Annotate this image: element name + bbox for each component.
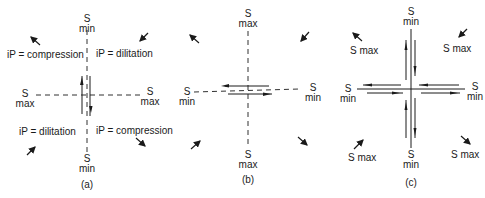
arrow-lower-right-icon bbox=[461, 136, 470, 144]
quadrant-label-upper-left: S max bbox=[350, 45, 378, 56]
slip-arrow-right-icon bbox=[263, 93, 271, 97]
panel-caption: (c) bbox=[405, 177, 417, 188]
slip-arrow-left-icon bbox=[221, 84, 229, 88]
axis-label-right: S min bbox=[467, 82, 483, 102]
arrow-upper-right-icon bbox=[301, 32, 309, 41]
axis-label-right: S max bbox=[141, 87, 160, 107]
slip-arrow-down-icon bbox=[414, 66, 417, 74]
arrow-lower-right-icon bbox=[298, 137, 307, 145]
quadrant-label-lower-left: S max bbox=[348, 152, 376, 163]
arrow-upper-right-icon bbox=[140, 33, 148, 41]
slip-arrow-down-icon bbox=[414, 128, 417, 136]
arrow-lower-right-icon bbox=[136, 138, 145, 146]
axis-label-bottom: S min bbox=[403, 150, 419, 170]
arrow-upper-left-icon bbox=[353, 33, 362, 41]
arrow-lower-left-icon bbox=[354, 140, 363, 149]
slip-arrow-up-icon bbox=[80, 77, 84, 85]
axis-label-top: S min bbox=[403, 7, 419, 27]
slip-arrow-right-icon bbox=[450, 92, 458, 95]
slip-arrow-up-icon bbox=[405, 42, 408, 50]
axis-label-left: S max bbox=[16, 89, 35, 109]
arrow-lower-left-icon bbox=[191, 141, 200, 149]
arrow-upper-left-icon bbox=[190, 35, 199, 43]
horizontal-dashed-axis bbox=[194, 89, 300, 92]
panel-caption: (a) bbox=[81, 179, 93, 190]
slip-arrow-up-icon bbox=[405, 102, 408, 110]
slip-arrow-left-icon bbox=[420, 84, 428, 87]
arrow-lower-left-icon bbox=[27, 147, 35, 155]
axis-label-bottom: S max bbox=[239, 150, 258, 170]
axis-label-top: S min bbox=[79, 14, 95, 34]
quadrant-label-upper-left: iP = compression bbox=[7, 49, 84, 60]
panel-b: S max S max S min S min (b) bbox=[165, 0, 325, 198]
slip-arrow-left-icon bbox=[364, 84, 372, 87]
quadrant-label-lower-right: S max bbox=[451, 149, 479, 160]
quadrant-label-lower-right: iP = compression bbox=[96, 125, 173, 136]
panel-c: S min S min S min S min S max S max S ma… bbox=[325, 0, 485, 198]
arrow-upper-right-icon bbox=[459, 29, 467, 37]
quadrant-label-upper-right: S max bbox=[443, 43, 471, 54]
axis-label-top: S max bbox=[239, 9, 258, 29]
axis-label-left: S min bbox=[179, 87, 195, 107]
axis-label-right: S min bbox=[305, 83, 321, 103]
quadrant-label-upper-right: iP = dilitation bbox=[96, 48, 153, 59]
panel-caption: (b) bbox=[242, 174, 254, 185]
axis-label-bottom: S min bbox=[79, 154, 95, 174]
slip-arrow-right-icon bbox=[392, 92, 400, 95]
axis-label-left: S min bbox=[340, 84, 356, 104]
quadrant-label-lower-left: iP = dilitation bbox=[19, 126, 76, 137]
panel-a: S min S min S max S max iP = compression… bbox=[0, 0, 165, 198]
arrow-upper-left-icon bbox=[31, 37, 40, 45]
